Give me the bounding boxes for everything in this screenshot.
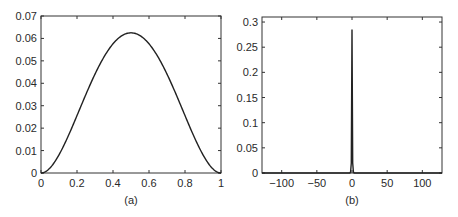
y-tick-label: 0.03 <box>16 100 37 112</box>
y-tick-label: 0.05 <box>237 142 258 154</box>
x-tick-label: 1 <box>218 177 224 189</box>
y-tick-label: 0.15 <box>237 92 258 104</box>
panel-caption-a: (a) <box>124 194 137 206</box>
chart-panel-a: 00.010.020.030.040.050.060.0700.20.40.60… <box>16 10 224 206</box>
y-tick-label: 0.1 <box>243 117 258 129</box>
x-tick-label: −50 <box>308 177 327 189</box>
x-tick-label: 100 <box>413 177 431 189</box>
x-tick-label: 0 <box>349 177 355 189</box>
y-tick-label: 0.04 <box>16 77 37 89</box>
y-tick-label: 0.2 <box>243 66 258 78</box>
y-tick-label: 0.25 <box>237 41 258 53</box>
chart-panel-b: 00.050.10.150.20.250.3−100−50050100(b) <box>237 16 442 206</box>
x-tick-label: 0 <box>38 177 44 189</box>
x-tick-label: −100 <box>269 177 294 189</box>
x-tick-label: 50 <box>381 177 393 189</box>
y-tick-label: 0.02 <box>16 122 37 134</box>
x-tick-label: 0.8 <box>177 177 192 189</box>
y-tick-label: 0.06 <box>16 32 37 44</box>
y-tick-label: 0 <box>252 167 258 179</box>
x-tick-label: 0.2 <box>69 177 84 189</box>
data-line <box>41 33 221 173</box>
y-tick-label: 0.05 <box>16 55 37 67</box>
y-tick-label: 0.07 <box>16 10 37 22</box>
x-tick-label: 0.4 <box>105 177 120 189</box>
y-tick-label: 0.01 <box>16 145 37 157</box>
panel-caption-b: (b) <box>345 194 358 206</box>
data-line <box>262 30 442 173</box>
figure: 00.010.020.030.040.050.060.0700.20.40.60… <box>0 0 458 217</box>
y-tick-label: 0.3 <box>243 16 258 28</box>
y-tick-label: 0 <box>31 167 37 179</box>
x-tick-label: 0.6 <box>141 177 156 189</box>
plot-frame <box>41 16 221 173</box>
